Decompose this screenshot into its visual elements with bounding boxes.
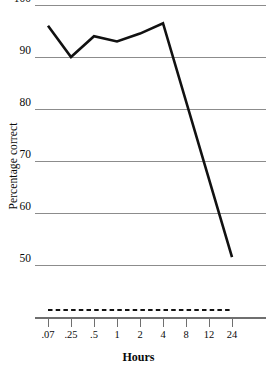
chart-container: Percentage correct 1009080706050 .07.25.… xyxy=(0,0,277,372)
y-tick-label-60: 60 xyxy=(5,200,31,212)
y-tick-label-100: 100 xyxy=(5,0,31,4)
y-tick-label-50: 50 xyxy=(5,252,31,264)
x-axis-title: Hours xyxy=(0,350,277,365)
x-axis-group xyxy=(35,310,266,327)
y-tick-label-80: 80 xyxy=(5,96,31,108)
chart-plot-area xyxy=(0,0,277,372)
data-series-line xyxy=(48,23,232,257)
y-tick-label-90: 90 xyxy=(5,44,31,56)
data-line-group xyxy=(48,23,232,257)
gridlines-group xyxy=(35,5,266,265)
y-tick-label-70: 70 xyxy=(5,148,31,160)
x-tick-label-24: 24 xyxy=(217,329,247,340)
